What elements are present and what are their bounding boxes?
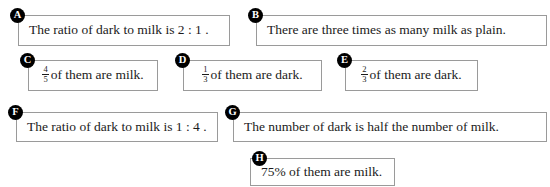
clipped-heading-remnant (0, 0, 550, 5)
option-h[interactable]: 75% of them are milk. (250, 158, 395, 186)
option-h-text: 75% of them are milk. (251, 165, 382, 180)
fraction-four-fifths: 4 5 (42, 65, 48, 84)
option-c-badge[interactable]: C (20, 53, 35, 68)
option-d-label: of them are dark. (211, 66, 303, 81)
option-e[interactable]: 2 3 of them are dark. (345, 60, 478, 91)
option-f-text: The ratio of dark to milk is 1 : 4 . (17, 120, 207, 135)
option-e-label: of them are dark. (370, 66, 462, 81)
option-d-text: 1 3 of them are dark. (184, 66, 321, 86)
option-a[interactable]: The ratio of dark to milk is 2 : 1 . (18, 15, 230, 46)
option-c[interactable]: 4 5 of them are milk. (28, 60, 158, 91)
answer-options-sheet: The ratio of dark to milk is 2 : 1 . A T… (0, 0, 550, 187)
option-f[interactable]: The ratio of dark to milk is 1 : 4 . (16, 112, 218, 142)
option-e-badge[interactable]: E (337, 53, 352, 68)
option-g-text: The number of dark is half the number of… (234, 120, 499, 135)
option-c-text: 4 5 of them are milk. (29, 66, 157, 86)
option-b-text: There are three times as many milk as pl… (257, 23, 506, 38)
option-e-text: 2 3 of them are dark. (346, 66, 477, 86)
option-g[interactable]: The number of dark is half the number of… (233, 112, 547, 142)
option-a-text: The ratio of dark to milk is 2 : 1 . (19, 23, 209, 38)
option-d-badge[interactable]: D (175, 53, 190, 68)
option-d[interactable]: 1 3 of them are dark. (183, 60, 322, 91)
option-a-badge[interactable]: A (10, 8, 25, 23)
option-b-badge[interactable]: B (248, 8, 263, 23)
option-c-label: of them are milk. (51, 66, 144, 81)
option-b[interactable]: There are three times as many milk as pl… (256, 15, 547, 46)
option-g-badge[interactable]: G (225, 105, 240, 120)
option-h-badge[interactable]: H (252, 151, 267, 166)
option-f-badge[interactable]: F (8, 105, 23, 120)
fraction-one-third: 1 3 (202, 65, 208, 84)
fraction-two-thirds: 2 3 (361, 65, 367, 84)
